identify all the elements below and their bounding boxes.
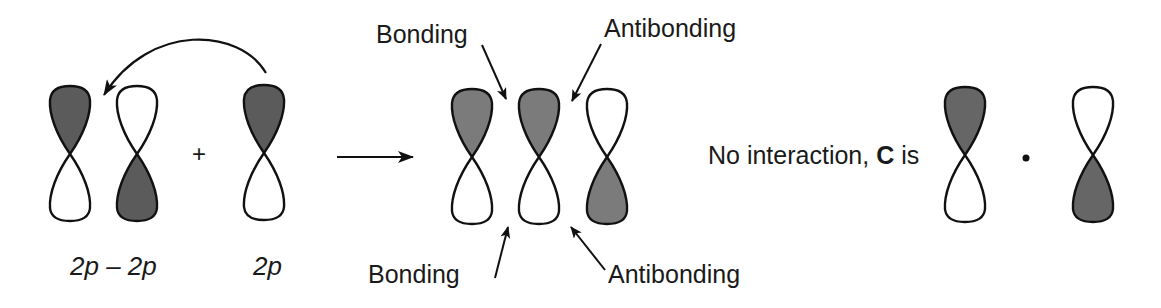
orbital-2p-b xyxy=(117,86,157,221)
orbital-top-lobe xyxy=(452,89,492,157)
label-2p: 2p xyxy=(253,253,282,279)
orbital-top-lobe xyxy=(117,86,157,154)
orbital-bottom-lobe xyxy=(50,154,90,221)
orbital-c-right xyxy=(1073,87,1113,222)
orbital-bottom-lobe xyxy=(945,155,985,222)
orbital-c-left xyxy=(945,87,985,222)
label-bonding-bottom: Bonding xyxy=(368,262,460,287)
orbital-bottom-lobe xyxy=(244,153,284,220)
no-interaction-suffix: is xyxy=(894,141,919,169)
orbital-result-2 xyxy=(519,89,559,224)
no-interaction-prefix: No interaction, xyxy=(708,141,876,169)
orbital-top-lobe xyxy=(519,89,559,157)
orbital-bottom-lobe xyxy=(519,157,559,224)
group-no-interaction xyxy=(945,87,1113,222)
group-result-orbitals xyxy=(452,44,627,278)
orbital-top-lobe xyxy=(244,85,284,153)
orbital-2p-single xyxy=(244,85,284,220)
orbital-result-1 xyxy=(452,89,492,224)
orbital-top-lobe xyxy=(50,86,90,154)
label-no-interaction: No interaction, C is xyxy=(708,143,919,168)
orbital-result-3 xyxy=(587,89,627,224)
orbital-top-lobe xyxy=(1073,87,1113,155)
orbital-bottom-lobe xyxy=(1073,155,1113,222)
antibonding-bottom-arrow-icon xyxy=(571,227,605,270)
group-2p-combination xyxy=(50,40,284,221)
orbital-2p-a xyxy=(50,86,90,221)
label-2p-minus-2p: 2p – 2p xyxy=(70,253,157,279)
orbital-bottom-lobe xyxy=(587,157,627,224)
label-antibonding-top: Antibonding xyxy=(604,16,736,41)
orbital-top-lobe xyxy=(587,89,627,157)
orbital-top-lobe xyxy=(945,87,985,155)
plus-sign: + xyxy=(192,142,206,166)
label-bonding-top: Bonding xyxy=(376,22,468,47)
orbital-bottom-lobe xyxy=(117,154,157,221)
orbital-bottom-lobe xyxy=(452,157,492,224)
orbital-interaction-diagram xyxy=(0,0,1161,308)
label-antibonding-bottom: Antibonding xyxy=(608,262,740,287)
bonding-bottom-arrow-icon xyxy=(495,227,508,278)
separator-dot-icon xyxy=(1023,155,1030,162)
no-interaction-c: C xyxy=(876,141,894,169)
